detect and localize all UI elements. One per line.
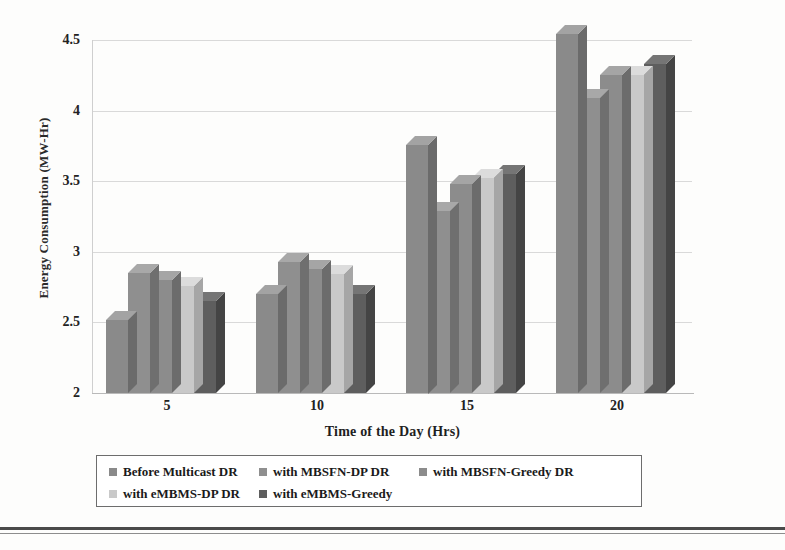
bar-side-face	[322, 260, 331, 393]
bar-side-face	[194, 277, 203, 393]
legend-label: with eMBMS-Greedy	[273, 486, 392, 502]
legend-item-3[interactable]: with eMBMS-DP DR	[109, 486, 259, 502]
bar-side-face	[300, 253, 309, 393]
legend-swatch-icon	[109, 468, 117, 476]
bar-side-face	[666, 55, 675, 393]
y-axis-tick-labels: 22.533.544.5	[38, 0, 80, 400]
legend-item-4[interactable]: with eMBMS-Greedy	[259, 486, 392, 502]
chart-legend: Before Multicast DRwith MBSFN-DP DRwith …	[96, 455, 642, 507]
bar-side-face	[172, 271, 181, 393]
bar-side-face	[128, 311, 137, 393]
bar-side-face	[644, 66, 653, 393]
bar-side-face	[150, 264, 159, 393]
bar-group-10	[256, 0, 366, 393]
bar-side-face	[494, 169, 503, 393]
bar-side-face	[622, 66, 631, 393]
bar-10-series-0	[256, 294, 278, 393]
legend-label: with MBSFN-Greedy DR	[433, 464, 574, 480]
x-tick-15: 15	[427, 398, 507, 414]
legend-label: with MBSFN-DP DR	[273, 464, 389, 480]
bar-20-series-0	[556, 34, 578, 393]
bar-side-face	[600, 89, 609, 393]
bar-side-face	[578, 25, 587, 393]
bar-side-face	[450, 202, 459, 393]
y-tick-4: 4	[38, 103, 80, 119]
bar-side-face	[366, 285, 375, 393]
legend-item-0[interactable]: Before Multicast DR	[109, 464, 259, 480]
bar-front-face	[556, 34, 578, 393]
y-tick-2: 2	[38, 385, 80, 401]
bar-side-face	[428, 136, 437, 394]
bar-front-face	[406, 145, 428, 394]
legend-label: with eMBMS-DP DR	[123, 486, 240, 502]
legend-label: Before Multicast DR	[123, 464, 238, 480]
x-tick-10: 10	[277, 398, 357, 414]
bar-side-face	[472, 175, 481, 393]
legend-item-1[interactable]: with MBSFN-DP DR	[259, 464, 419, 480]
x-tick-20: 20	[577, 398, 657, 414]
bar-group-5	[106, 0, 216, 393]
bar-side-face	[516, 165, 525, 393]
legend-row-1: Before Multicast DRwith MBSFN-DP DRwith …	[109, 461, 631, 483]
y-tick-3: 3	[38, 244, 80, 260]
legend-swatch-icon	[109, 490, 117, 498]
page-divider-rule-secondary	[0, 533, 785, 534]
bar-group-20	[556, 0, 666, 393]
bar-side-face	[216, 292, 225, 393]
bar-group-15	[406, 0, 516, 393]
page-background: Energy Consumption (MW-Hr) 22.533.544.5 …	[0, 0, 785, 550]
bar-5-series-0	[106, 320, 128, 393]
legend-item-2[interactable]: with MBSFN-Greedy DR	[419, 464, 574, 480]
x-tick-5: 5	[127, 398, 207, 414]
bar-groups	[92, 0, 692, 393]
bar-front-face	[106, 320, 128, 393]
bar-front-face	[256, 294, 278, 393]
y-tick-4.5: 4.5	[38, 32, 80, 48]
bar-side-face	[278, 285, 287, 393]
y-tick-3.5: 3.5	[38, 173, 80, 189]
bar-15-series-0	[406, 145, 428, 394]
bar-chart: Energy Consumption (MW-Hr) 22.533.544.5 …	[0, 0, 785, 550]
y-tick-2.5: 2.5	[38, 314, 80, 330]
legend-swatch-icon	[259, 490, 267, 498]
x-axis-title: Time of the Day (Hrs)	[0, 424, 785, 440]
x-axis-line	[92, 393, 694, 394]
legend-swatch-icon	[259, 468, 267, 476]
legend-swatch-icon	[419, 468, 427, 476]
page-divider-rule	[0, 527, 785, 530]
bar-side-face	[344, 265, 353, 393]
legend-row-2: with eMBMS-DP DRwith eMBMS-Greedy	[109, 483, 631, 505]
